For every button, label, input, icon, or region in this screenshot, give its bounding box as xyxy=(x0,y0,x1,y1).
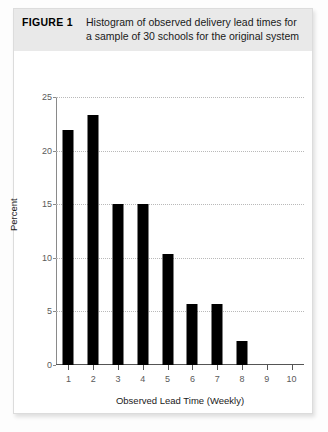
y-tick-mark xyxy=(53,97,56,98)
histogram-bar xyxy=(237,341,248,365)
histogram-chart: 051015202512345678910 Percent Observed L… xyxy=(14,83,314,413)
x-tick-label: 4 xyxy=(133,374,153,384)
y-axis-line xyxy=(56,97,57,365)
histogram-bar xyxy=(63,130,74,365)
x-tick-mark xyxy=(118,365,119,370)
x-tick-mark xyxy=(267,365,268,370)
histogram-bar xyxy=(113,204,124,365)
figure-caption-band: Histogram of observed delivery lead time… xyxy=(14,9,312,51)
x-axis-title: Observed Lead Time (Weekly) xyxy=(56,395,304,406)
histogram-bar xyxy=(212,304,223,365)
x-tick-label: 7 xyxy=(207,374,227,384)
plot-area: 051015202512345678910 xyxy=(56,97,304,365)
x-tick-label: 9 xyxy=(257,374,277,384)
figure-number-label: FIGURE 1 xyxy=(22,16,82,28)
gridline xyxy=(56,97,304,98)
histogram-bar xyxy=(162,254,173,365)
x-tick-label: 10 xyxy=(282,374,302,384)
x-tick-label: 2 xyxy=(83,374,103,384)
x-tick-mark xyxy=(168,365,169,370)
x-tick-label: 8 xyxy=(232,374,252,384)
y-tick-label: 25 xyxy=(12,92,52,102)
x-tick-mark xyxy=(93,365,94,370)
y-tick-mark xyxy=(53,311,56,312)
x-tick-mark xyxy=(292,365,293,370)
x-tick-label: 1 xyxy=(58,374,78,384)
y-tick-label: 0 xyxy=(12,360,52,370)
histogram-bar xyxy=(137,204,148,365)
x-tick-mark xyxy=(192,365,193,370)
y-tick-label: 10 xyxy=(12,253,52,263)
x-tick-label: 3 xyxy=(108,374,128,384)
x-tick-mark xyxy=(242,365,243,370)
figure-page: Histogram of observed delivery lead time… xyxy=(0,0,328,432)
x-tick-mark xyxy=(143,365,144,370)
y-tick-mark xyxy=(53,151,56,152)
y-tick-label: 20 xyxy=(12,146,52,156)
x-tick-mark xyxy=(217,365,218,370)
y-tick-label: 5 xyxy=(12,306,52,316)
y-axis-title: Percent xyxy=(8,198,19,231)
x-tick-mark xyxy=(68,365,69,370)
figure-container: Histogram of observed delivery lead time… xyxy=(13,8,313,414)
y-tick-mark xyxy=(53,258,56,259)
x-tick-label: 6 xyxy=(182,374,202,384)
histogram-bar xyxy=(187,304,198,365)
x-tick-label: 5 xyxy=(158,374,178,384)
y-tick-mark xyxy=(53,365,56,366)
y-tick-mark xyxy=(53,204,56,205)
histogram-bar xyxy=(88,115,99,365)
